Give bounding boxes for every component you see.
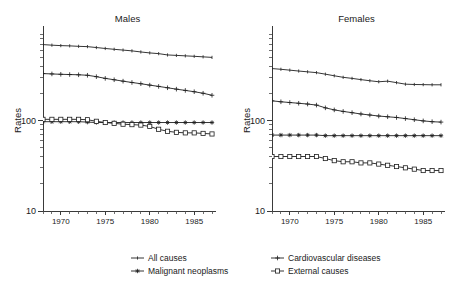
series-cardiovascular-diseases (41, 71, 215, 97)
marker-plus (85, 73, 90, 78)
marker-square (103, 120, 107, 124)
marker-plus (368, 113, 373, 118)
plot-area (41, 43, 215, 136)
panel-females: Females101001970197519801985Rates (241, 13, 445, 226)
panel-title-females: Females (338, 13, 375, 24)
marker-star (270, 133, 274, 137)
marker-star (359, 133, 363, 137)
y-tick-label: 100 (21, 116, 36, 126)
marker-square (359, 161, 363, 165)
x-tick-label: 1985 (185, 217, 203, 226)
marker-plus (385, 114, 390, 119)
x-tick-label: 1975 (325, 217, 343, 226)
marker-square (332, 159, 336, 163)
marker-star (201, 120, 205, 124)
marker-star (288, 133, 292, 137)
marker-star (394, 133, 398, 137)
series-all-causes (272, 67, 441, 86)
marker-star (314, 133, 318, 137)
marker-square (279, 154, 283, 158)
y-tick-label: 100 (250, 116, 265, 126)
marker-square (139, 123, 143, 127)
series-path (272, 69, 441, 85)
marker-plus (287, 100, 292, 105)
marker-plus (58, 72, 63, 77)
series-malignant-neoplasms (41, 119, 214, 124)
marker-plus (67, 72, 72, 77)
series-external-causes (270, 154, 443, 172)
marker-square (112, 121, 116, 125)
y-tick-label: 10 (26, 206, 36, 216)
marker-plus (165, 85, 170, 90)
legend-label: All causes (148, 253, 187, 263)
marker-star (430, 133, 434, 137)
marker-star (421, 133, 425, 137)
marker-square (341, 160, 345, 164)
marker-plus (50, 72, 55, 77)
marker-plus (305, 102, 310, 107)
marker-star (296, 133, 300, 137)
marker-square (165, 129, 169, 133)
marker-star (183, 120, 187, 124)
marker-square (368, 161, 372, 165)
marker-plus (112, 77, 117, 82)
series-path (43, 45, 212, 58)
marker-plus (394, 115, 399, 120)
marker-square (305, 154, 309, 158)
marker-plus (439, 120, 444, 125)
figure-container: Males101001970197519801985RatesFemales10… (0, 0, 460, 294)
x-tick-label: 1980 (141, 217, 159, 226)
marker-plus (279, 99, 284, 104)
marker-square (68, 117, 72, 121)
dual-panel-line-chart: Males101001970197519801985RatesFemales10… (0, 0, 460, 294)
marker-plus (350, 110, 355, 115)
marker-star (368, 133, 372, 137)
legend-item-malignant-neoplasms[interactable]: Malignant neoplasms (131, 266, 228, 276)
marker-square (314, 154, 318, 158)
marker-square (192, 131, 196, 135)
marker-square (394, 164, 398, 168)
series-path (272, 101, 441, 122)
marker-plus (192, 89, 197, 94)
series-all-causes (43, 43, 212, 59)
marker-star (192, 120, 196, 124)
marker-star (165, 120, 169, 124)
marker-square (377, 162, 381, 166)
marker-star (412, 133, 416, 137)
marker-plus (275, 256, 280, 261)
marker-plus (430, 119, 435, 124)
marker-plus (210, 93, 215, 98)
marker-square (201, 131, 205, 135)
legend-item-all-causes[interactable]: All causes (131, 253, 187, 263)
marker-star (439, 133, 443, 137)
marker-plus (376, 114, 381, 119)
legend-label: External causes (288, 266, 348, 276)
marker-star (323, 133, 327, 137)
marker-plus (147, 83, 152, 88)
legend-item-cardiovascular-diseases[interactable]: Cardiovascular diseases (271, 253, 381, 263)
marker-plus (412, 117, 417, 122)
marker-star (403, 133, 407, 137)
marker-square (148, 124, 152, 128)
marker-plus (201, 91, 206, 96)
marker-square (439, 168, 443, 172)
marker-square (297, 154, 301, 158)
marker-plus (121, 79, 126, 84)
x-tick-label: 1980 (370, 217, 388, 226)
marker-plus (76, 72, 81, 77)
y-axis-title: Rates (241, 108, 252, 133)
legend: All causesCardiovascular diseasesMaligna… (131, 253, 381, 276)
legend-item-external-causes[interactable]: External causes (271, 266, 348, 276)
marker-plus (174, 87, 179, 92)
marker-square (210, 132, 214, 136)
marker-star (210, 120, 214, 124)
marker-star (377, 133, 381, 137)
series-path (43, 74, 212, 96)
marker-plus (314, 103, 319, 108)
marker-square (421, 168, 425, 172)
x-tick-label: 1985 (414, 217, 432, 226)
marker-square (412, 167, 416, 171)
marker-plus (270, 99, 275, 104)
marker-plus (139, 81, 144, 86)
marker-plus (156, 84, 161, 89)
